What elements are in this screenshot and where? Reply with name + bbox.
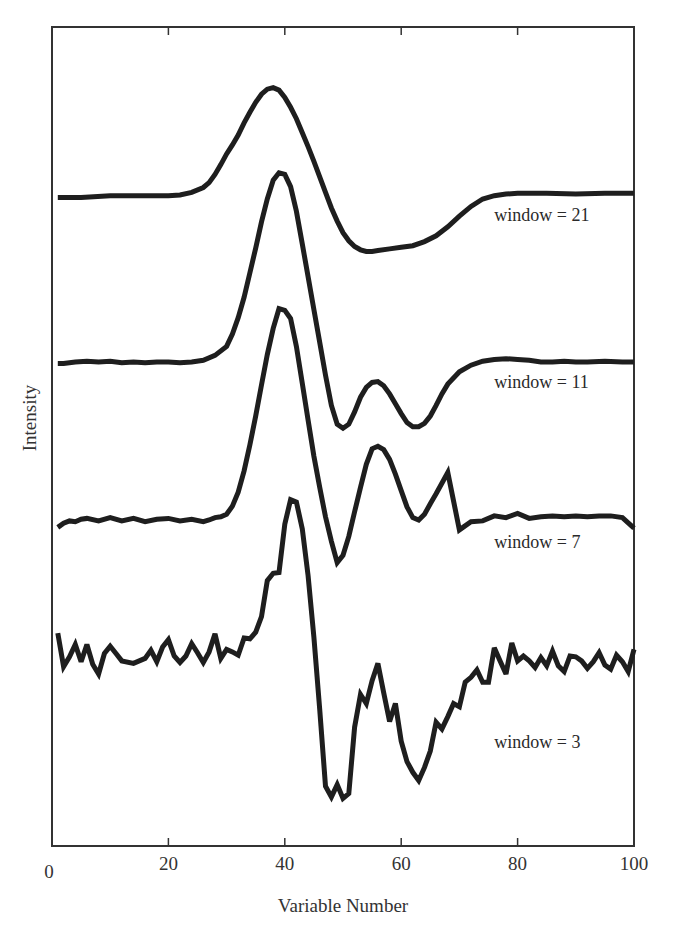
- series-label: window = 21: [494, 205, 589, 225]
- series-label: window = 7: [494, 532, 580, 552]
- series-line-window21: [58, 88, 634, 252]
- y-axis-label: Intensity: [19, 384, 40, 451]
- x-tick-label: 60: [392, 853, 411, 874]
- x-ticks: 020406080100: [44, 27, 648, 882]
- x-axis-label: Variable Number: [278, 895, 409, 916]
- series-label: window = 11: [494, 372, 588, 392]
- series-group: [58, 88, 634, 799]
- x-tick-label: 0: [44, 861, 54, 882]
- series-line-window7: [58, 309, 634, 563]
- x-tick-label: 100: [620, 853, 649, 874]
- x-tick-label: 20: [159, 853, 178, 874]
- plot-frame: [52, 27, 634, 846]
- x-tick-label: 40: [275, 853, 294, 874]
- series-label: window = 3: [494, 732, 580, 752]
- x-tick-label: 80: [508, 853, 527, 874]
- chart-svg: 020406080100 window = 21window = 11windo…: [0, 0, 677, 934]
